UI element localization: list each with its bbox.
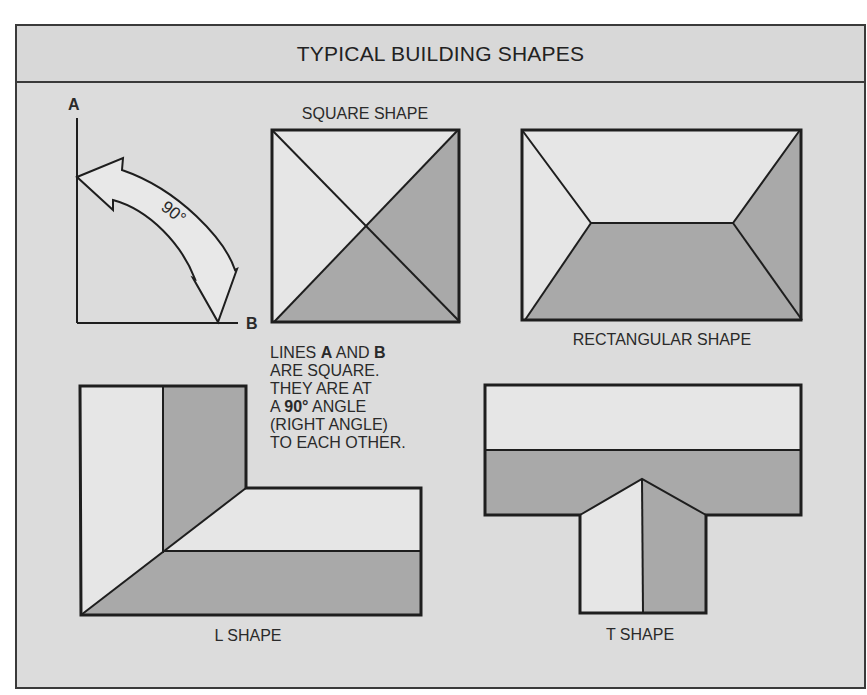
rectangular-shape: RECTANGULAR SHAPE <box>522 130 802 348</box>
rectangular-shape-label: RECTANGULAR SHAPE <box>573 331 751 348</box>
note-line-4: A 90° ANGLE <box>270 398 366 415</box>
line-a-label: A <box>68 96 80 113</box>
t-top-light-face <box>485 385 801 450</box>
double-arrow-icon <box>77 158 237 322</box>
square-shape-label: SQUARE SHAPE <box>302 105 428 122</box>
note-line-1: LINES A AND B <box>270 344 386 361</box>
building-shapes-diagram: A B 90° SQUARE SHAPE RECTANGULAR SHAPE L… <box>0 0 867 695</box>
l-shape-label: L SHAPE <box>215 627 282 644</box>
note-line-6: TO EACH OTHER. <box>270 434 406 451</box>
line-b-label: B <box>246 315 258 332</box>
right-angle-note: LINES A AND B ARE SQUARE. THEY ARE AT A … <box>270 344 406 451</box>
right-angle-diagram: A B 90° <box>68 96 258 332</box>
t-shape: T SHAPE <box>485 385 801 643</box>
square-shape: SQUARE SHAPE <box>272 105 460 322</box>
t-shape-label: T SHAPE <box>606 626 674 643</box>
note-line-3: THEY ARE AT <box>270 380 372 397</box>
note-line-2: ARE SQUARE. <box>270 362 379 379</box>
note-line-5: (RIGHT ANGLE) <box>270 416 388 433</box>
